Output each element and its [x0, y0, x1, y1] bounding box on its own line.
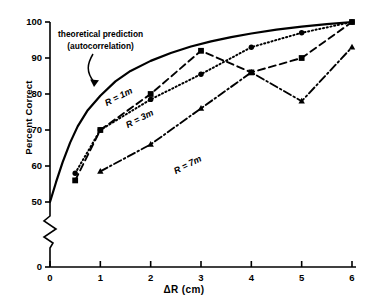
data-point-marker — [148, 97, 153, 102]
figure-root: 05060708090100 0123456 Percent Correct Δ… — [0, 0, 368, 307]
theoretical-prediction-annotation: theoretical prediction (autocorrelation) — [58, 29, 143, 52]
data-point-marker — [349, 19, 355, 25]
x-tick-label: 0 — [47, 272, 52, 283]
x-tick-label: 2 — [148, 272, 153, 283]
annotation-arrow-curve — [88, 54, 94, 82]
x-axis-ticks-group: 0123456 — [47, 261, 354, 283]
data-point-marker — [72, 178, 78, 184]
data-point-marker — [249, 45, 254, 50]
x-axis-title: ΔR (cm) — [0, 284, 368, 295]
data-point-marker — [148, 91, 154, 97]
data-point-marker — [349, 44, 355, 50]
data-point-marker — [198, 72, 203, 77]
series-line — [100, 47, 352, 171]
annotation-arrow-head — [90, 79, 99, 87]
x-tick-label: 6 — [349, 272, 354, 283]
data-point-marker — [97, 127, 103, 133]
annotation-arrow-group — [88, 54, 99, 87]
data-point-marker — [299, 55, 305, 61]
x-tick-label: 3 — [198, 272, 203, 283]
y-tick-label: 50 — [31, 196, 42, 207]
x-tick-label: 1 — [98, 272, 104, 283]
data-point-marker — [299, 30, 304, 35]
annotation-line-2: (autocorrelation) — [58, 41, 143, 53]
y-tick-label: 100 — [26, 16, 42, 27]
y-tick-label: 0 — [37, 261, 42, 272]
x-tick-label: 4 — [249, 272, 255, 283]
y-axis-break-zigzag — [44, 208, 56, 267]
y-axis-title: Percent Correct — [23, 68, 34, 168]
x-tick-label: 5 — [299, 272, 305, 283]
y-tick-label: 90 — [31, 52, 42, 63]
data-point-marker — [198, 48, 204, 54]
annotation-line-1: theoretical prediction — [58, 29, 143, 41]
chart-canvas: 05060708090100 0123456 — [0, 0, 368, 307]
